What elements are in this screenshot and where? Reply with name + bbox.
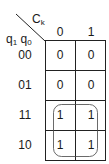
kmap-cell: 0: [76, 40, 106, 70]
kmap-cell: 1: [76, 100, 106, 130]
column-variable-label: Ck: [32, 13, 45, 29]
kmap-cell: 1: [45, 100, 75, 130]
column-variable: C: [32, 12, 41, 26]
kmap-cell: 1: [76, 130, 106, 160]
kmap-cell: 0: [45, 70, 75, 100]
row-header: 01: [8, 70, 42, 100]
column-header: 0: [45, 25, 75, 39]
kmap-cell: 1: [45, 130, 75, 160]
kmap-cell: 0: [76, 70, 106, 100]
row-header: 11: [8, 100, 42, 130]
row-header: 00: [8, 40, 42, 70]
column-header: 1: [76, 25, 106, 39]
row-header: 10: [8, 130, 42, 160]
kmap-cell: 0: [45, 40, 75, 70]
